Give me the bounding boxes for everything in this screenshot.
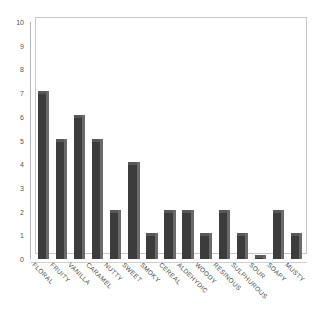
bar[interactable]	[38, 93, 46, 259]
bar[interactable]	[128, 164, 136, 259]
bar-chart: 012345678910 FLORALFRUITYVANILLACARAMELN…	[0, 0, 318, 322]
bar-slot	[74, 22, 82, 259]
bar[interactable]	[291, 235, 299, 259]
bar[interactable]	[255, 257, 263, 259]
bar-slot	[92, 22, 100, 259]
bar-slot	[56, 22, 64, 259]
bar[interactable]	[74, 117, 82, 259]
bar-slot	[273, 22, 281, 259]
y-tick-label: 0	[20, 256, 24, 263]
x-axis-label: MUSTY	[284, 261, 306, 283]
bar-slot	[164, 22, 172, 259]
bar[interactable]	[92, 141, 100, 260]
bar[interactable]	[146, 235, 154, 259]
bar-slot	[255, 22, 263, 259]
bar[interactable]	[56, 141, 64, 260]
bar-slot	[182, 22, 190, 259]
bar[interactable]	[219, 212, 227, 259]
bar-slot	[219, 22, 227, 259]
bar-series	[31, 22, 302, 259]
bar-slot	[200, 22, 208, 259]
bar[interactable]	[164, 212, 172, 259]
y-tick-label: 9	[20, 42, 24, 49]
bar-slot	[237, 22, 245, 259]
bar[interactable]	[110, 212, 118, 259]
bar-slot	[38, 22, 46, 259]
y-tick-label: 6	[20, 113, 24, 120]
y-tick-label: 2	[20, 208, 24, 215]
bar-slot	[110, 22, 118, 259]
y-tick-label: 7	[20, 90, 24, 97]
x-axis-labels: FLORALFRUITYVANILLACARAMELNUTTYSWEETSMOK…	[31, 261, 302, 321]
bar-slot	[146, 22, 154, 259]
y-tick-label: 3	[20, 184, 24, 191]
y-tick-label: 4	[20, 161, 24, 168]
bar[interactable]	[182, 212, 190, 259]
bar[interactable]	[273, 212, 281, 259]
y-tick-label: 10	[16, 19, 24, 26]
bar-slot	[128, 22, 136, 259]
y-tick-label: 5	[20, 137, 24, 144]
y-tick-label: 1	[20, 232, 24, 239]
bar[interactable]	[237, 235, 245, 259]
y-tick-label: 8	[20, 66, 24, 73]
bar[interactable]	[200, 235, 208, 259]
bar-slot	[291, 22, 299, 259]
y-axis: 012345678910	[0, 22, 28, 259]
plot-area	[30, 22, 308, 259]
